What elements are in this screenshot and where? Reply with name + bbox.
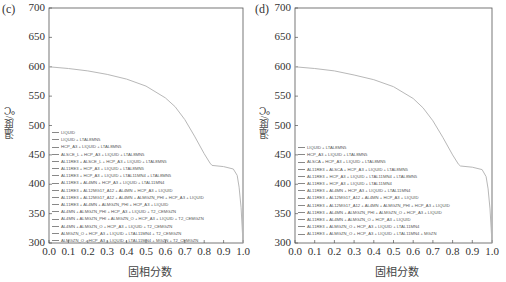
legend-swatch [298, 205, 305, 206]
legend-entry: AL11RE3 + ALSCE_L + HCP_A3 + LIQUID + LT… [52, 158, 204, 165]
legend-label: AL11RE3 + ALMGZN_O + HCP_A3 + LIQUID + L… [307, 230, 436, 237]
legend-swatch [52, 211, 59, 212]
legend: LIQUID + LTAL8MN5HCP_A3 + LIQUID + LTAL8… [298, 144, 450, 238]
legend-swatch [298, 154, 305, 155]
y-tick-label: 700 [261, 1, 291, 13]
legend-swatch [52, 175, 59, 176]
legend-label: AL11RE3 + AL12MG17_A12 + AL4MN + ALMGZN_… [61, 194, 204, 201]
legend-label: ALSCA + HCP_A3 + LIQUID + LTAL8MN5 [307, 158, 386, 165]
y-tick-label: 500 [15, 119, 45, 131]
legend-label: AL11RE3 + AL4MN + ALMGZN_PHI + HCP_A3 + … [61, 201, 168, 208]
legend-entry: AL11RE3 + HCP_A3 + LIQUID + LTAL11MN4 + … [52, 172, 204, 179]
legend-entry: AL11RE3 + HCP_A3 + LIQUID + LTAL11MN4 [298, 180, 450, 187]
legend-swatch [298, 162, 305, 163]
x-axis-label: 固相分数 [128, 263, 172, 279]
legend-swatch [52, 168, 59, 169]
legend-label: AL11RE3 + AL4MN + HCP_A3 + LIQUID + LTAL… [61, 179, 164, 186]
legend-label: LIQUID + LTAL8MN5 [61, 136, 100, 143]
legend-label: AL11RE3 + AL12MG17_A12 + AL4MN + ALMGZN_… [307, 202, 450, 209]
legend-entry: AL11RE3 + AL4MN + ALMGZN_O + HCP_A3 + LI… [298, 216, 450, 223]
legend-swatch [298, 190, 305, 191]
legend-entry: AL11RE3 + ALMGZN_O + HCP_A3 + LIQUID + L… [298, 223, 450, 230]
legend-entry: LIQUID + LTAL8MN5 [298, 144, 450, 151]
y-tick-label: 650 [261, 30, 291, 42]
legend-entry: AL11RE3 + AL12MG17_A12 + AL4MN + HCP_A3 … [298, 194, 450, 201]
legend-entry: ALMGZN_O + HCP_A3 + LIQUID + LTAL11MN4 +… [52, 230, 204, 237]
legend-entry: AL11RE3 + HCP_A3 + LIQUID + LTAL8MN5 [52, 165, 204, 172]
x-tick-label: 1.0 [480, 245, 504, 257]
legend-swatch [298, 226, 305, 227]
legend-swatch [298, 234, 305, 235]
legend-entry: AL4MN + ALMGZN_PHI + HCP_A3 + LIQUID + T… [52, 208, 204, 215]
legend-entry: ALMGZN_O + HCP_A3 + LIQUID + LTAL11MN4 +… [52, 237, 204, 244]
legend-entry: AL11RE3 + AL12MG17_A12 + AL4MN + ALMGZN_… [52, 194, 204, 201]
x-tick-label: 1.0 [231, 245, 255, 257]
y-tick-label: 650 [15, 30, 45, 42]
legend-label: LIQUID [61, 129, 75, 136]
legend-label: AL4MN + ALMGZN_O + HCP_A3 + LIQUID + T2_… [61, 223, 172, 230]
legend-swatch [52, 132, 59, 133]
legend-entry: AL4MN + ALMGZN_O + HCP_A3 + LIQUID + T2_… [52, 223, 204, 230]
legend-entry: AL11RE3 + AL12MG17_A12 + AL4MN + ALMGZN_… [298, 202, 450, 209]
legend-label: AL11RE3 + ALMGZN_O + HCP_A3 + LIQUID + L… [307, 223, 419, 230]
legend-entry: ALSCE_L + HCP_A3 + LIQUID + LTAL8MN5 [52, 151, 204, 158]
legend-swatch [52, 197, 59, 198]
chart-panel-c: (c) 温度/℃ 固相分数 LIQUIDLIQUID + LTAL8MN5HCP… [0, 0, 253, 282]
y-tick-label: 600 [15, 60, 45, 72]
y-tick-label: 700 [15, 1, 45, 13]
legend-swatch [52, 204, 59, 205]
legend-label: AL4MN + ALMGZN_PHI + HCP_A3 + LIQUID + T… [61, 208, 176, 215]
legend-label: ALSCE_L + HCP_A3 + LIQUID + LTAL8MN5 [61, 151, 144, 158]
legend-entry: LIQUID [52, 129, 204, 136]
legend-entry: HCP_A3 + LIQUID + LTAL8MN5 [298, 151, 450, 158]
legend-label: AL11RE3 + AL4MN + ALMGZN_O + HCP_A3 + LI… [307, 216, 411, 223]
legend-swatch [52, 183, 59, 184]
legend-label: AL11RE3 + AL12MG17_A12 + AL4MN + HCP_A3 … [307, 194, 418, 201]
legend-label: LIQUID + LTAL8MN5 [307, 144, 346, 151]
legend-label: AL11RE3 + AL4MN + ALMGZN_PHI + ALMGZN_O … [307, 209, 442, 216]
legend-label: ALMGZN_O + HCP_A3 + LIQUID + LTAL11MN4 +… [61, 237, 198, 244]
legend-label: HCP_A3 + LIQUID + LTAL8MN5 [307, 151, 367, 158]
legend-swatch [298, 212, 305, 213]
y-tick-label: 400 [15, 177, 45, 189]
legend-label: AL4MN + ALMGZN_PHI + ALMGZN_O + HCP_A3 +… [61, 215, 204, 222]
legend-label: AL11RE3 + ALSCA + HCP_A3 + LIQUID + LTAL… [307, 166, 408, 173]
legend-label: AL11RE3 + AL4MN + HCP_A3 + LIQUID + LTAL… [307, 187, 410, 194]
y-tick-label: 350 [15, 207, 45, 219]
legend-swatch [298, 219, 305, 220]
legend-swatch [298, 176, 305, 177]
chart-panel-d: (d) 温度/℃ 固相分数 LIQUID + LTAL8MN5HCP_A3 + … [253, 0, 506, 282]
legend-entry: AL11RE3 + AL4MN + HCP_A3 + LIQUID + LTAL… [52, 179, 204, 186]
legend-swatch [52, 147, 59, 148]
y-tick-label: 550 [15, 89, 45, 101]
legend-swatch [52, 161, 59, 162]
legend-swatch [52, 154, 59, 155]
legend-label: AL11RE3 + HCP_A3 + LIQUID + LTAL8MN5 [61, 165, 144, 172]
x-axis-label: 固相分数 [375, 263, 419, 279]
legend: LIQUIDLIQUID + LTAL8MN5HCP_A3 + LIQUID +… [52, 129, 204, 244]
y-tick-label: 450 [15, 148, 45, 160]
legend-entry: AL11RE3 + HCP_A3 + LIQUID + LTAL11MN4 + … [298, 173, 450, 180]
legend-label: HCP_A3 + LIQUID + LTAL8MN5 [61, 143, 121, 150]
y-tick-label: 450 [261, 148, 291, 160]
legend-swatch [52, 219, 59, 220]
legend-entry: ALSCA + HCP_A3 + LIQUID + LTAL8MN5 [298, 158, 450, 165]
legend-swatch [52, 139, 59, 140]
legend-label: AL11RE3 + HCP_A3 + LIQUID + LTAL11MN4 + … [61, 172, 171, 179]
legend-entry: AL11RE3 + ALSCA + HCP_A3 + LIQUID + LTAL… [298, 166, 450, 173]
legend-label: ALMGZN_O + HCP_A3 + LIQUID + LTAL11MN4 +… [61, 230, 181, 237]
legend-label: AL11RE3 + HCP_A3 + LIQUID + LTAL11MN4 [307, 180, 392, 187]
y-tick-label: 350 [261, 207, 291, 219]
y-tick-label: 500 [261, 119, 291, 131]
y-tick-label: 600 [261, 60, 291, 72]
y-tick-label: 400 [261, 177, 291, 189]
legend-entry: AL11RE3 + AL4MN + ALMGZN_PHI + ALMGZN_O … [298, 209, 450, 216]
y-tick-label: 550 [261, 89, 291, 101]
legend-swatch [298, 147, 305, 148]
legend-swatch [52, 233, 59, 234]
legend-entry: AL4MN + ALMGZN_PHI + ALMGZN_O + HCP_A3 +… [52, 215, 204, 222]
legend-swatch [298, 198, 305, 199]
legend-entry: AL11RE3 + AL4MN + ALMGZN_PHI + HCP_A3 + … [52, 201, 204, 208]
legend-swatch [298, 183, 305, 184]
legend-swatch [52, 240, 59, 241]
